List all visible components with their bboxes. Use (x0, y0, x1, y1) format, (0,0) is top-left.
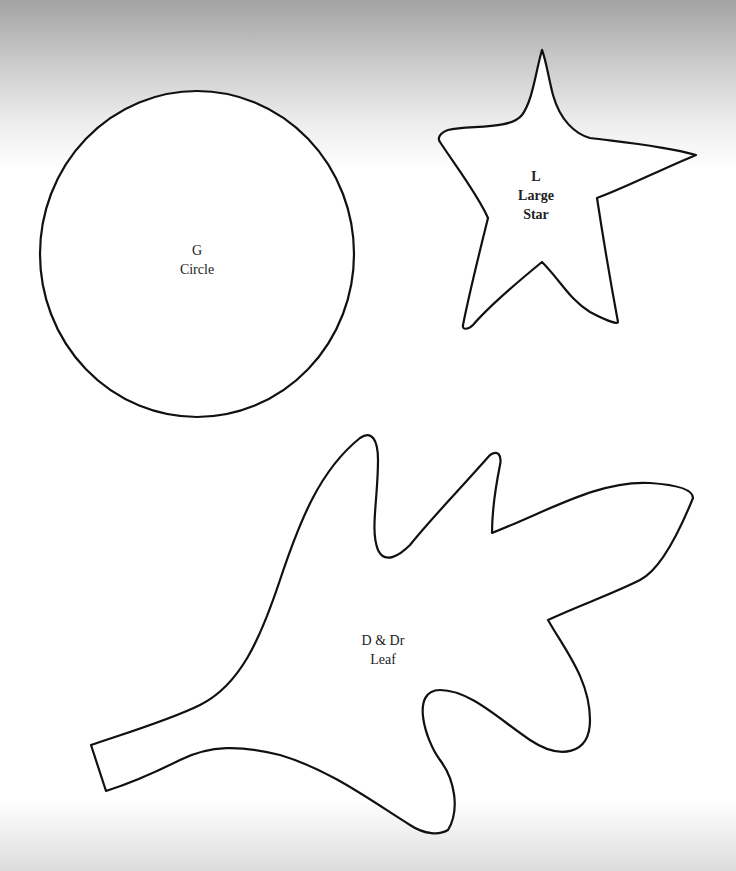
star-template-outline (439, 50, 696, 329)
leaf-label: D & Dr Leaf (362, 631, 405, 669)
pattern-sheet (0, 0, 736, 871)
circle-name: Circle (180, 260, 214, 279)
circle-label: G Circle (180, 241, 214, 279)
star-name-line1: Large (518, 186, 554, 205)
leaf-code: D & Dr (362, 631, 405, 650)
star-name-line2: Star (518, 205, 554, 224)
leaf-name: Leaf (362, 650, 405, 669)
star-code: L (518, 167, 554, 186)
star-label: L Large Star (518, 167, 554, 224)
circle-code: G (180, 241, 214, 260)
